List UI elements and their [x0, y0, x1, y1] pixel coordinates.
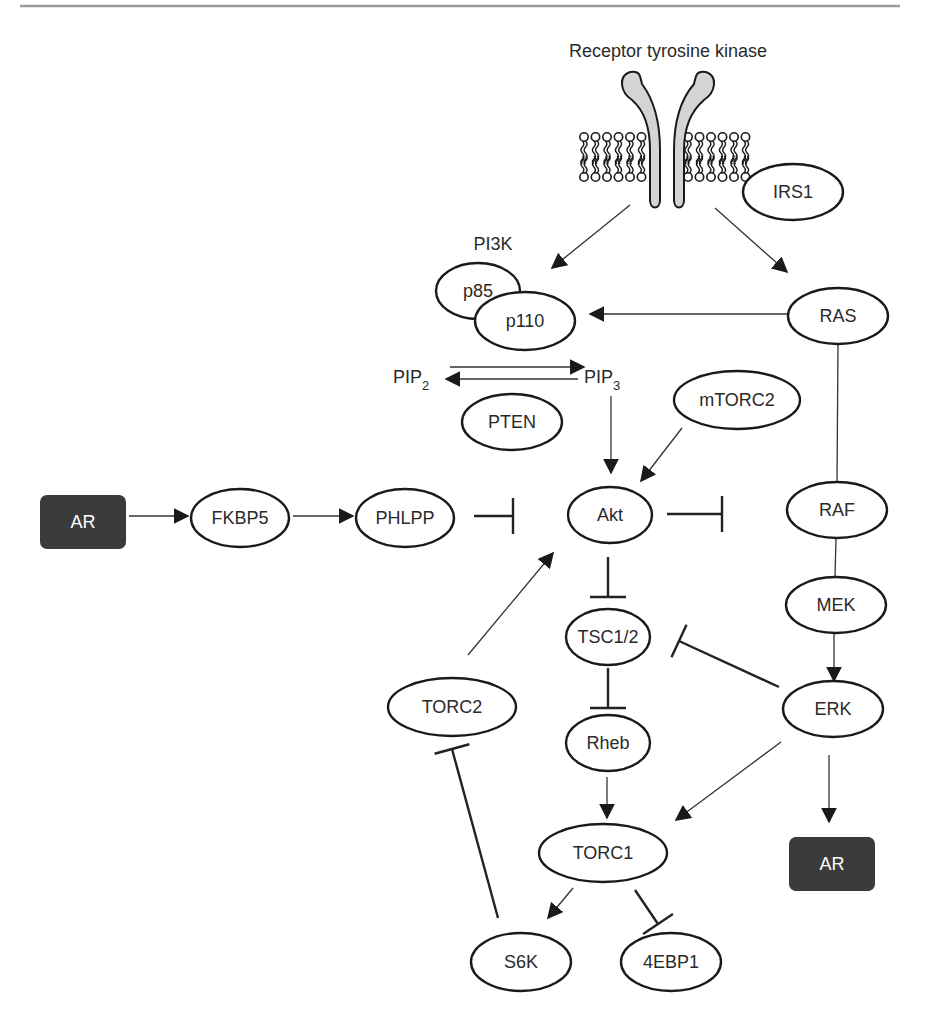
- pip2-label: PIP2: [393, 367, 429, 393]
- node-rheb: Rheb: [566, 715, 650, 771]
- edge-receptor-to-p110: [552, 205, 630, 268]
- node-raf: RAF: [787, 482, 887, 538]
- pi3k-label: PI3K: [473, 234, 512, 254]
- node-akt-label: Akt: [597, 505, 623, 525]
- edge-torc2-to-akt: [468, 553, 553, 655]
- node-torc2-label: TORC2: [422, 697, 483, 717]
- node-torc2: TORC2: [388, 678, 516, 736]
- box-ar-left: AR: [40, 495, 126, 549]
- node-tsc12: TSC1/2: [566, 609, 650, 665]
- edge-akt-to-raf: [667, 496, 722, 532]
- box-ar-right: AR: [789, 837, 875, 891]
- node-erk: ERK: [783, 681, 883, 737]
- box-ar-right-label: AR: [819, 854, 844, 874]
- node-irs1: IRS1: [743, 164, 843, 220]
- edge-erk-to-torc1: [676, 742, 781, 820]
- edge-erk-to-tsc12: [671, 625, 779, 687]
- node-raf-label: RAF: [819, 500, 855, 520]
- node-p85-label: p85: [463, 281, 493, 301]
- node-irs1-label: IRS1: [773, 182, 813, 202]
- edge-torc1-to-s6k: [548, 888, 573, 918]
- node-p110: p110: [475, 292, 575, 350]
- box-ar-left-label: AR: [70, 512, 95, 532]
- edge-raf-to-mek: [835, 538, 836, 577]
- node-ras-label: RAS: [819, 306, 856, 326]
- pathway-nodes: IRS1p85p110RASPTENmTORC2FKBP5PHLPPAktRAF…: [40, 164, 888, 991]
- node-rheb-label: Rheb: [586, 733, 629, 753]
- node-torc1-label: TORC1: [573, 843, 634, 863]
- node-ras: RAS: [788, 288, 888, 344]
- node-phlpp: PHLPP: [356, 489, 454, 547]
- node-4ebp1-label: 4EBP1: [643, 952, 699, 972]
- node-erk-label: ERK: [814, 699, 851, 719]
- node-s6k: S6K: [471, 933, 571, 991]
- membrane-lipid-bilayer-icon: [580, 133, 750, 181]
- node-fkbp5: FKBP5: [191, 489, 289, 547]
- node-mtorc2: mTORC2: [674, 371, 800, 429]
- edge-ras-to-raf: [837, 344, 838, 482]
- edge-s6k-to-torc2: [435, 744, 498, 918]
- edge-phlpp-to-akt: [474, 498, 513, 534]
- node-akt: Akt: [568, 487, 652, 543]
- node-tsc12-label: TSC1/2: [577, 627, 638, 647]
- receptor-title: Receptor tyrosine kinase: [569, 41, 767, 61]
- node-pten-label: PTEN: [488, 412, 536, 432]
- edge-akt-to-tsc12: [590, 557, 626, 597]
- node-torc1: TORC1: [539, 824, 667, 882]
- node-mek-label: MEK: [816, 595, 855, 615]
- node-phlpp-label: PHLPP: [375, 508, 434, 528]
- node-pten: PTEN: [462, 394, 562, 450]
- node-fkbp5-label: FKBP5: [211, 508, 268, 528]
- node-4ebp1: 4EBP1: [621, 933, 721, 991]
- edge-tsc12-to-rheb: [590, 668, 626, 708]
- inhibition-bar-icon: [643, 914, 673, 934]
- pi3k-akt-mtor-pathway-diagram: Receptor tyrosine kinase PI3K IRS1p85p11…: [0, 0, 926, 1021]
- node-mek: MEK: [786, 577, 886, 633]
- node-s6k-label: S6K: [504, 952, 538, 972]
- node-p110-label: p110: [506, 311, 545, 331]
- inhibition-bar-icon: [671, 625, 686, 658]
- edge-torc1-to-4ebp1: [635, 890, 673, 934]
- pip3-label: PIP3: [584, 367, 620, 393]
- node-mtorc2-label: mTORC2: [699, 390, 775, 410]
- edge-mtorc2-to-akt: [641, 428, 682, 481]
